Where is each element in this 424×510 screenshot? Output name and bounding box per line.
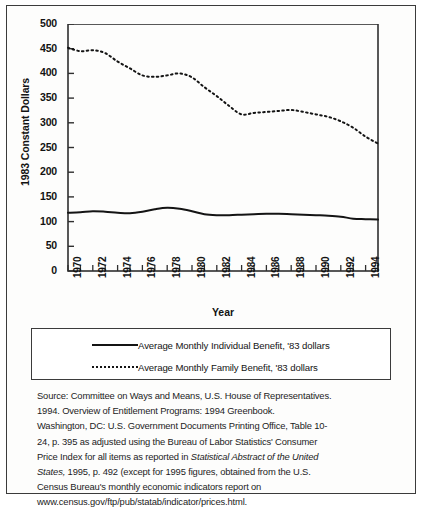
y-tick-label: 0: [23, 264, 57, 276]
x-tick-label: 1988: [295, 257, 306, 278]
source-line: Source: Committee on Ways and Means, U.S…: [37, 388, 393, 403]
x-tick-label: 1978: [171, 257, 182, 278]
source-text: Price Index for all items as reported in: [37, 451, 191, 462]
x-tick-label: 1982: [221, 257, 232, 278]
x-axis-tick-labels: 1970197219741976197819801982198419861988…: [61, 276, 385, 310]
x-tick-label: 1980: [196, 257, 207, 278]
x-tick-label: 1970: [72, 257, 83, 278]
chart-svg: [61, 24, 385, 274]
source-text-italic: States,: [37, 466, 65, 477]
x-tick-label: 1974: [122, 257, 133, 278]
legend-label: Average Monthly Individual Benefit, '83 …: [138, 340, 330, 351]
x-tick-label: 1986: [270, 257, 281, 278]
figure-panel: 050100150200250300350400450500 1983 Cons…: [6, 5, 416, 494]
x-axis-title: Year: [61, 306, 385, 318]
legend-label: Average Monthly Family Benefit, '83 doll…: [138, 362, 318, 373]
y-tick-label: 500: [23, 17, 57, 29]
source-line: Price Index for all items as reported in…: [37, 449, 393, 464]
y-axis-ticks: [68, 24, 74, 271]
legend-swatch-dotted-line-icon: [92, 362, 138, 372]
x-tick-label: 1990: [320, 257, 331, 278]
source-line: 24, p. 395 as adjusted using the Bureau …: [37, 434, 393, 449]
source-line: Washington, DC: U.S. Government Document…: [37, 418, 393, 433]
series-line-individual-benefit: [68, 208, 378, 220]
source-text-italic: Statistical Abstract of the United: [191, 451, 318, 462]
legend-swatch-solid-line-icon: [92, 340, 138, 350]
x-tick-label: 1976: [146, 257, 157, 278]
y-axis-title: 1983 Constant Dollars: [19, 52, 31, 212]
chart-container: 050100150200250300350400450500 1983 Cons…: [7, 6, 417, 321]
chart-legend: Average Monthly Individual Benefit, '83 …: [31, 328, 391, 380]
y-tick-label: 50: [23, 239, 57, 251]
x-tick-label: 1992: [345, 257, 356, 278]
source-line: States, 1995, p. 492 (except for 1995 fi…: [37, 464, 393, 479]
source-text: 1995, p. 492 (except for 1995 figures, o…: [65, 466, 311, 477]
source-note: Source: Committee on Ways and Means, U.S…: [37, 388, 393, 510]
source-line: www.census.gov/ftp/pub/statab/indicator/…: [37, 494, 393, 509]
source-line: 1994. Overview of Entitlement Programs: …: [37, 403, 393, 418]
legend-item-family-benefit: Average Monthly Family Benefit, '83 doll…: [32, 356, 390, 378]
source-line: Census Bureau's monthly economic indicat…: [37, 479, 393, 494]
y-tick-label: 100: [23, 215, 57, 227]
series-line-family-benefit: [68, 48, 378, 144]
x-tick-label: 1972: [97, 257, 108, 278]
plot-area: [61, 24, 385, 274]
plot-frame: [68, 24, 378, 271]
x-tick-label: 1994: [370, 257, 381, 278]
axis-frame: [68, 24, 378, 271]
x-tick-label: 1984: [246, 257, 257, 278]
legend-item-individual-benefit: Average Monthly Individual Benefit, '83 …: [32, 334, 390, 356]
